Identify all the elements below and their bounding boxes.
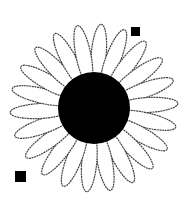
daisy-illustration bbox=[0, 0, 190, 217]
flower-center bbox=[58, 72, 130, 144]
bottom-left-marker bbox=[15, 171, 26, 182]
top-right-marker bbox=[131, 27, 140, 36]
